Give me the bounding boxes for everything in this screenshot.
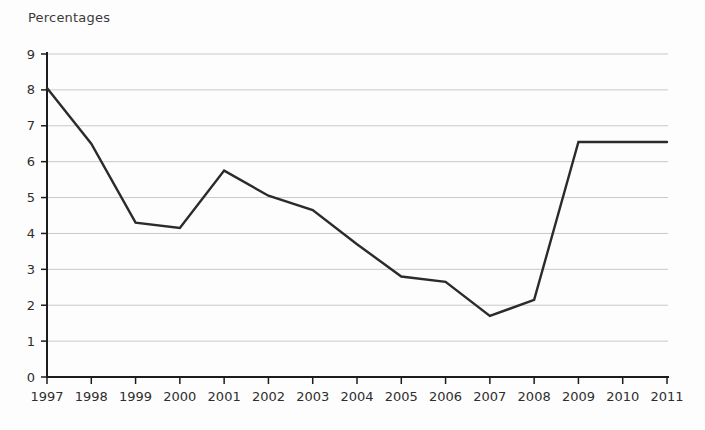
data-line-series: [47, 88, 667, 316]
x-tick-label: 2003: [296, 389, 329, 404]
x-tick-label: 2002: [252, 389, 285, 404]
y-tick-label: 8: [27, 82, 35, 97]
x-tick-label: 2007: [473, 389, 506, 404]
y-tick-label: 4: [27, 226, 35, 241]
x-tick-label: 2001: [208, 389, 241, 404]
x-tick-label: 2006: [429, 389, 462, 404]
line-chart: 0123456789199719981999200020012002200320…: [0, 0, 705, 430]
x-tick-label: 1997: [30, 389, 63, 404]
x-tick-label: 2005: [385, 389, 418, 404]
x-tick-label: 2000: [163, 389, 196, 404]
x-tick-label: 2009: [562, 389, 595, 404]
y-tick-label: 0: [27, 370, 35, 385]
y-tick-label: 1: [27, 334, 35, 349]
chart-container: Percentages 0123456789199719981999200020…: [0, 0, 705, 430]
x-tick-label: 2008: [518, 389, 551, 404]
x-tick-label: 1999: [119, 389, 152, 404]
y-tick-label: 5: [27, 190, 35, 205]
x-tick-label: 2011: [650, 389, 683, 404]
y-tick-label: 7: [27, 118, 35, 133]
y-tick-label: 6: [27, 154, 35, 169]
x-tick-label: 1998: [75, 389, 108, 404]
y-tick-label: 3: [27, 262, 35, 277]
x-tick-label: 2010: [606, 389, 639, 404]
y-tick-label: 9: [27, 47, 35, 62]
x-tick-label: 2004: [340, 389, 373, 404]
y-tick-label: 2: [27, 298, 35, 313]
